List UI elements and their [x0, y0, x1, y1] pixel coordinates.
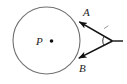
circle-outline [13, 7, 80, 74]
tangent-segment-to-a [79, 22, 112, 41]
diagram-canvas: P A B [0, 0, 127, 84]
tangent-congruence-tick [104, 26, 108, 29]
label-center-p: P [35, 35, 43, 47]
label-point-b: B [79, 62, 86, 74]
center-point-dot [50, 39, 54, 43]
label-point-a: A [82, 6, 90, 18]
tangent-segment-to-b [79, 41, 113, 58]
geometry-diagram: P A B [0, 0, 127, 84]
